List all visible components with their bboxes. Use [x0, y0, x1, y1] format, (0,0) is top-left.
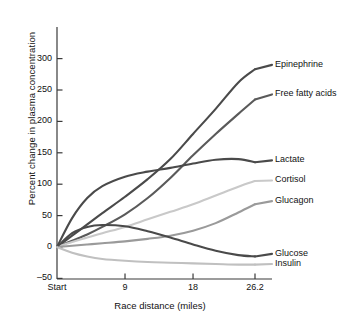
x-axis-ticks: [125, 274, 255, 280]
chart-figure: Percent change in plasma concentration R…: [0, 0, 348, 323]
series-label-epinephrine: Epinephrine: [275, 59, 323, 69]
series-line-insulin: [57, 247, 255, 265]
x-tick-label: 9: [105, 282, 145, 292]
x-tick-label: 26.2: [235, 282, 275, 292]
x-tick-label: Start: [37, 282, 77, 292]
y-tick-label: 300: [22, 53, 52, 63]
leader-line-glucose: [255, 254, 272, 257]
leader-line-cortisol: [255, 180, 272, 181]
y-tick-label: 0: [22, 241, 52, 251]
label-leader-lines: [255, 65, 272, 265]
y-tick-label: 150: [22, 147, 52, 157]
y-tick-label: 100: [22, 178, 52, 188]
series-label-cortisol: Cortisol: [275, 174, 306, 184]
series-label-glucagon: Glucagon: [275, 195, 314, 205]
x-axis-title: Race distance (miles): [55, 300, 265, 311]
leader-line-glucagon: [255, 201, 272, 204]
series-line-glucose: [57, 225, 255, 256]
leader-line-insulin: [255, 264, 272, 265]
y-tick-label: 250: [22, 84, 52, 94]
series-label-free-fatty-acids: Free fatty acids: [275, 88, 337, 98]
leader-line-epinephrine: [255, 65, 272, 69]
series-label-glucose: Glucose: [275, 248, 308, 258]
y-tick-label: 50: [22, 210, 52, 220]
y-tick-label: 200: [22, 115, 52, 125]
data-series-group: [57, 69, 255, 264]
series-label-lactate: Lactate: [275, 154, 305, 164]
y-tick-label: –50: [22, 272, 52, 282]
leader-line-free-fatty-acids: [255, 94, 272, 99]
leader-line-lactate: [255, 160, 272, 162]
x-tick-label: 18: [173, 282, 213, 292]
series-label-insulin: Insulin: [275, 258, 301, 268]
axes: [57, 27, 272, 279]
